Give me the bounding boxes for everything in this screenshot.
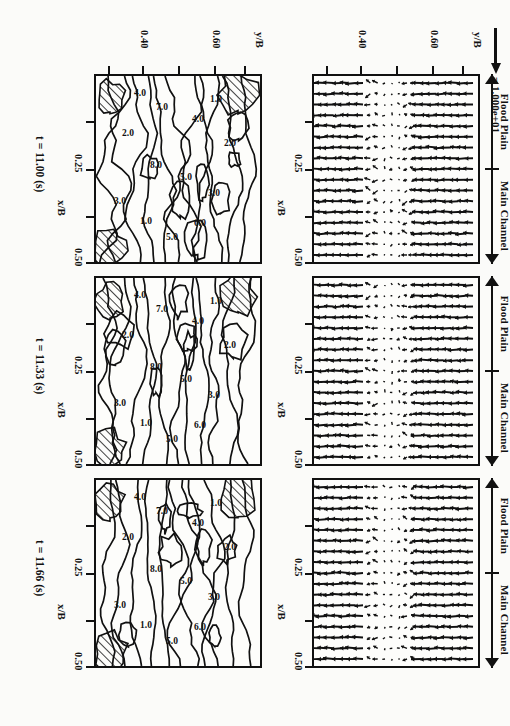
svg-text:1.0: 1.0 [210,498,222,508]
x-tick-label-t2-050: 0.50 [73,450,84,468]
x-axis-name-upper-t2: x/B [276,402,288,418]
main-channel-label-t2: Main Channel [499,372,510,464]
x-tick-upper-t2-a [305,323,312,325]
y-tick-upper-c [396,66,398,74]
x-tick-label-upper-t2-050: 0.50 [293,450,304,468]
svg-text:1.0: 1.0 [140,216,152,226]
x-tick-label-t2-025: 0.25 [73,356,84,374]
x-tick-upper-t1-a [305,121,312,123]
svg-text:6.0: 6.0 [194,420,206,430]
x-tick-upper-t3-b [305,573,312,575]
x-tick-label-t3-050: 0.50 [73,652,84,670]
x-tick-t2-c [86,418,94,420]
x-axis-name-upper-t3: x/B [276,604,288,620]
flood-plain-label-t2: Flood Plain [499,278,510,370]
x-tick-label-upper-t1-050: 0.50 [293,248,304,266]
x-tick-t2-a [86,323,94,325]
x-tick-upper-t3-a [305,525,312,527]
x-tick-t3-a [86,525,94,527]
x-tick-t1-a [86,121,94,123]
y-tick-label-upper-060: 0.60 [429,30,440,48]
y-tick-upper-b [432,66,434,74]
svg-text:8.0: 8.0 [150,362,162,372]
svg-text:6.0: 6.0 [194,218,206,228]
y-tick-label-lower-060: 0.60 [211,30,222,48]
flood-plain-label-t3: Flood Plain [499,480,510,572]
y-tick-upper-d [360,66,362,74]
svg-text:5.0: 5.0 [166,636,178,646]
svg-text:5.0: 5.0 [166,232,178,242]
x-tick-t3-d [86,666,94,668]
vector-panel-t3 [312,478,480,668]
x-tick-upper-t2-d [305,464,312,466]
vector-field-plot-t3 [314,480,478,666]
contour-plot-t3: 1.02.03.04.05.06.07.08.01.02.03.04.05.0 [96,480,260,666]
svg-text:1.0: 1.0 [140,620,152,630]
region-bracket-t2: Flood Plain Main Channel [484,276,510,466]
svg-text:2.0: 2.0 [122,330,134,340]
x-axis-name-t1: x/B [56,200,68,216]
y-tick-lower-e [108,66,110,74]
x-tick-label-upper-t3-050: 0.50 [293,652,304,670]
y-tick-upper-e [326,66,328,74]
svg-text:2.0: 2.0 [224,340,236,350]
vector-panel-t2 [312,276,480,466]
contour-plot-t1: 1.02.03.04.05.06.07.08.01.02.03.04.05.0 [96,76,260,262]
svg-text:5.0: 5.0 [180,576,192,586]
x-axis-name-upper-t1: x/B [276,200,288,216]
figure-canvas: = 1.000e+01 [0,0,510,726]
main-channel-label-t3: Main Channel [499,574,510,666]
svg-text:2.0: 2.0 [122,532,134,542]
x-tick-t1-c [86,216,94,218]
main-channel-label-t1: Main Channel [499,170,510,262]
svg-text:4.0: 4.0 [134,290,146,300]
svg-text:7.0: 7.0 [156,304,168,314]
x-tick-upper-t1-c [305,216,312,218]
svg-text:5.0: 5.0 [180,374,192,384]
y-tick-lower-c [178,66,180,74]
x-tick-label-upper-t2-025: 0.25 [293,356,304,374]
x-tick-label-upper-t3-025: 0.25 [293,558,304,576]
svg-text:3.0: 3.0 [208,188,220,198]
contour-panel-t3: 1.02.03.04.05.06.07.08.01.02.03.04.05.0 [94,478,262,668]
x-tick-upper-t2-c [305,418,312,420]
flood-plain-label-t1: Flood Plain [499,76,510,168]
y-tick-label-upper-040: 0.40 [357,30,368,48]
y-axis-name-upper: y/B [472,32,484,48]
x-tick-t2-b [86,371,94,373]
y-tick-lower-b [214,66,216,74]
svg-text:2.0: 2.0 [122,128,134,138]
x-tick-t1-d [86,262,94,264]
x-tick-t3-b [86,573,94,575]
svg-text:3.0: 3.0 [114,196,126,206]
x-tick-upper-t1-d [305,262,312,264]
svg-text:1.0: 1.0 [210,94,222,104]
y-axis-name-lower: y/B [254,32,266,48]
x-tick-upper-t3-d [305,666,312,668]
x-tick-label-upper-t1-025: 0.25 [293,154,304,172]
x-tick-label-t1-025: 0.25 [73,154,84,172]
x-tick-t2-d [86,464,94,466]
x-tick-upper-t1-b [305,169,312,171]
region-bracket-t3: Flood Plain Main Channel [484,478,510,668]
time-caption-t2: t = 11.33 (s) [34,338,46,394]
svg-text:2.0: 2.0 [224,138,236,148]
x-tick-t1-b [86,169,94,171]
svg-text:3.0: 3.0 [114,398,126,408]
y-tick-lower-d [142,66,144,74]
contour-panel-t1: 1.02.03.04.05.06.07.08.01.02.03.04.05.0 [94,74,262,264]
y-tick-upper-a [462,66,464,74]
contour-panel-t2: 1.02.03.04.05.06.07.08.01.02.03.04.05.0 [94,276,262,466]
svg-text:3.0: 3.0 [208,592,220,602]
svg-text:7.0: 7.0 [156,506,168,516]
svg-text:5.0: 5.0 [180,172,192,182]
y-tick-label-lower-040: 0.40 [139,30,150,48]
svg-text:6.0: 6.0 [194,622,206,632]
figure-stage: = 1.000e+01 [0,0,510,726]
svg-text:4.0: 4.0 [192,518,204,528]
svg-text:5.0: 5.0 [166,434,178,444]
vector-field-plot-t1 [314,76,478,262]
svg-text:4.0: 4.0 [134,492,146,502]
time-caption-t1: t = 11.00 (s) [34,136,46,192]
x-tick-t3-c [86,620,94,622]
